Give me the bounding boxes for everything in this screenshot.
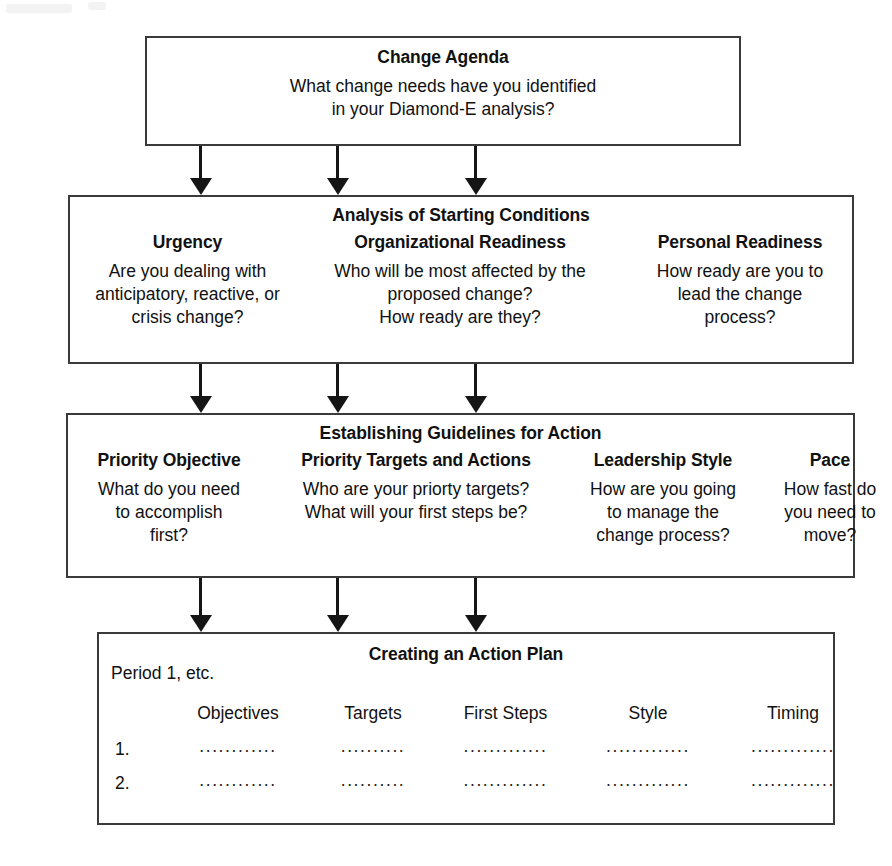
arrow-head xyxy=(327,178,349,195)
column-pace: Pace How fast do you need to move? xyxy=(760,450,892,547)
column-leadership-style-line-2: to manage the xyxy=(568,501,758,524)
cell-first-steps[interactable]: ............. xyxy=(433,766,578,800)
column-header-timing: Timing xyxy=(718,696,868,732)
column-leadership-style-line-3: change process? xyxy=(568,524,758,547)
arrow-agenda-to-urgency xyxy=(190,146,212,195)
arrow-shaft xyxy=(474,146,477,178)
arrow-shaft xyxy=(336,578,339,615)
row-number: 2. xyxy=(111,766,163,800)
column-organizational-readiness-line-2: proposed change? xyxy=(300,283,620,306)
arrow-conditions-to-priority-objective xyxy=(190,364,212,413)
column-urgency-body: Are you dealing with anticipatory, react… xyxy=(80,260,295,329)
column-priority-objective-line-3: first? xyxy=(74,524,264,547)
cell-timing[interactable]: ............. xyxy=(718,766,868,800)
column-pace-body: How fast do you need to move? xyxy=(760,478,892,547)
cell-objectives[interactable]: ............ xyxy=(163,732,313,766)
change-agenda-box: Change Agenda What change needs have you… xyxy=(145,36,741,146)
cell-targets[interactable]: .......... xyxy=(313,766,433,800)
dotted-fill: ............. xyxy=(463,738,547,756)
column-header-style: Style xyxy=(578,696,718,732)
guidelines-title: Establishing Guidelines for Action xyxy=(68,423,853,444)
column-personal-readiness-heading: Personal Readiness xyxy=(635,232,845,253)
arrow-head xyxy=(327,396,349,413)
arrow-shaft xyxy=(474,364,477,396)
arrow-head xyxy=(190,396,212,413)
cell-style[interactable]: ............. xyxy=(578,732,718,766)
arrow-head xyxy=(327,615,349,632)
guidelines-box: Establishing Guidelines for Action Prior… xyxy=(66,413,855,578)
cell-first-steps[interactable]: ............. xyxy=(433,732,578,766)
column-priority-targets-and-actions-line-1: Who are your priorty targets? xyxy=(266,478,566,501)
dotted-fill: ............. xyxy=(606,772,690,790)
column-priority-objective-heading: Priority Objective xyxy=(74,450,264,471)
scan-artifact xyxy=(88,2,106,10)
column-personal-readiness: Personal Readiness How ready are you to … xyxy=(635,232,845,329)
column-header-objectives: Objectives xyxy=(163,696,313,732)
column-organizational-readiness-body: Who will be most affected by the propose… xyxy=(300,260,620,329)
scan-artifact xyxy=(6,4,72,13)
action-plan-title: Creating an Action Plan xyxy=(99,644,833,665)
action-plan-period-label: Period 1, etc. xyxy=(111,663,833,684)
arrow-conditions-to-priority-targets xyxy=(327,364,349,413)
column-leadership-style-body: How are you going to manage the change p… xyxy=(568,478,758,547)
table-row: 2. ............ .......... .............… xyxy=(111,766,868,800)
column-urgency-heading: Urgency xyxy=(80,232,295,253)
cell-timing[interactable]: ............. xyxy=(718,732,868,766)
column-urgency-line-1: Are you dealing with xyxy=(80,260,295,283)
dotted-fill: ............. xyxy=(751,772,835,790)
action-plan-box: Creating an Action Plan Period 1, etc. O… xyxy=(97,632,835,825)
arrow-agenda-to-personal-readiness xyxy=(465,146,487,195)
arrow-shaft xyxy=(199,578,202,615)
starting-conditions-title: Analysis of Starting Conditions xyxy=(70,205,852,226)
column-pace-line-3: move? xyxy=(760,524,892,547)
column-pace-line-1: How fast do xyxy=(760,478,892,501)
arrow-shaft xyxy=(199,146,202,178)
arrow-agenda-to-org-readiness xyxy=(327,146,349,195)
dotted-fill: ............ xyxy=(199,772,277,790)
arrow-head xyxy=(465,178,487,195)
change-agenda-line-2: in your Diamond-E analysis? xyxy=(147,98,739,121)
arrow-guidelines-to-first-steps xyxy=(465,578,487,632)
column-pace-heading: Pace xyxy=(760,450,892,471)
change-agenda-body: What change needs have you identified in… xyxy=(147,75,739,122)
dotted-fill: ............. xyxy=(606,738,690,756)
cell-style[interactable]: ............. xyxy=(578,766,718,800)
column-leadership-style-line-1: How are you going xyxy=(568,478,758,501)
arrow-shaft xyxy=(474,578,477,615)
column-header-first-steps: First Steps xyxy=(433,696,578,732)
table-corner-cell xyxy=(111,696,163,732)
column-header-targets: Targets xyxy=(313,696,433,732)
arrow-head xyxy=(190,615,212,632)
table-row: 1. ............ .......... .............… xyxy=(111,732,868,766)
guidelines-columns: Priority Objective What do you need to a… xyxy=(68,450,853,570)
arrow-shaft xyxy=(336,364,339,396)
arrow-guidelines-to-objectives xyxy=(190,578,212,632)
starting-conditions-box: Analysis of Starting Conditions Urgency … xyxy=(68,195,854,364)
change-agenda-line-1: What change needs have you identified xyxy=(147,75,739,98)
dotted-fill: .......... xyxy=(341,772,406,790)
arrow-conditions-to-leadership-style xyxy=(465,364,487,413)
cell-targets[interactable]: .......... xyxy=(313,732,433,766)
action-plan-table: Objectives Targets First Steps Style Tim… xyxy=(111,696,868,800)
column-priority-targets-and-actions-heading: Priority Targets and Actions xyxy=(266,450,566,471)
column-organizational-readiness-line-3: How ready are they? xyxy=(300,306,620,329)
arrow-head xyxy=(190,178,212,195)
flowchart-canvas: Change Agenda What change needs have you… xyxy=(0,0,892,866)
column-priority-objective-line-2: to accomplish xyxy=(74,501,264,524)
cell-objectives[interactable]: ............ xyxy=(163,766,313,800)
dotted-fill: .......... xyxy=(341,738,406,756)
row-number: 1. xyxy=(111,732,163,766)
column-priority-targets-and-actions-body: Who are your priorty targets? What will … xyxy=(266,478,566,524)
column-priority-objective: Priority Objective What do you need to a… xyxy=(74,450,264,547)
dotted-fill: ............. xyxy=(463,772,547,790)
dotted-fill: ............. xyxy=(751,738,835,756)
starting-conditions-columns: Urgency Are you dealing with anticipator… xyxy=(70,232,852,352)
column-leadership-style: Leadership Style How are you going to ma… xyxy=(568,450,758,547)
arrow-guidelines-to-targets xyxy=(327,578,349,632)
arrow-shaft xyxy=(336,146,339,178)
column-priority-targets-and-actions-line-2: What will your first steps be? xyxy=(266,501,566,524)
dotted-fill: ............ xyxy=(199,738,277,756)
column-personal-readiness-line-3: process? xyxy=(635,306,845,329)
column-priority-objective-body: What do you need to accomplish first? xyxy=(74,478,264,547)
column-priority-objective-line-1: What do you need xyxy=(74,478,264,501)
